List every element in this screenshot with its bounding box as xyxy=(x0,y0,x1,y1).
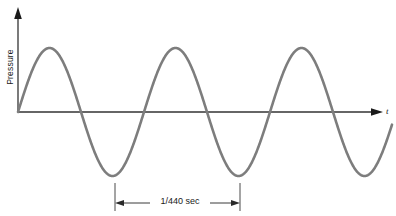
period-arrowhead-left-icon xyxy=(115,200,124,206)
x-axis-label: t xyxy=(386,106,389,116)
period-annotation-label: 1/440 sec xyxy=(150,196,210,207)
y-axis xyxy=(14,7,22,112)
x-axis-arrowhead-icon xyxy=(371,108,383,116)
period-arrowhead-right-icon xyxy=(231,200,240,206)
y-axis-arrowhead-icon xyxy=(14,7,22,19)
x-axis xyxy=(18,108,383,116)
plot-canvas xyxy=(0,0,396,216)
waveform-figure: Pressure t 1/440 sec xyxy=(0,0,396,216)
y-axis-label: Pressure xyxy=(5,40,15,94)
